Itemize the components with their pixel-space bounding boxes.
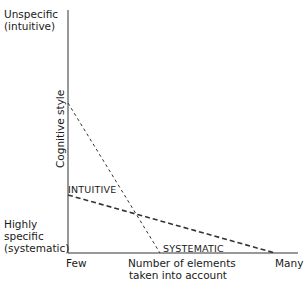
x-left-label: Few	[66, 257, 87, 269]
x-axis-title: Number of elements taken into account	[128, 257, 228, 281]
y-axis-title: Cognitive style	[54, 90, 66, 168]
y-bottom-label-line1: Highly	[4, 218, 69, 230]
x-axis-title-line1: Number of elements	[128, 257, 228, 269]
systematic-line	[68, 103, 160, 253]
y-top-label: Unspecific (intuitive)	[4, 8, 58, 32]
y-bottom-label-line2: specific	[4, 230, 69, 242]
y-bottom-label: Highly specific (systematic)	[4, 218, 69, 254]
y-bottom-label-line3: (systematic)	[4, 242, 69, 254]
x-axis-title-line2: taken into account	[128, 269, 228, 281]
systematic-label: SYSTEMATIC	[163, 243, 224, 254]
x-right-label: Many	[275, 257, 303, 269]
intuitive-label: INTUITIVE	[68, 184, 116, 195]
y-top-label-line1: Unspecific	[4, 8, 58, 20]
y-top-label-line2: (intuitive)	[4, 20, 58, 32]
